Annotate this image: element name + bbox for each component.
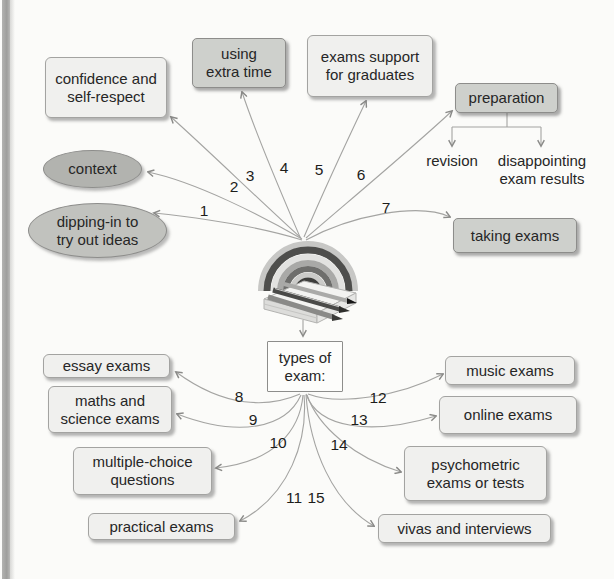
node-label: exams support for graduates bbox=[321, 48, 419, 84]
node-label: maths and science exams bbox=[60, 392, 159, 428]
node-label: music exams bbox=[466, 362, 554, 380]
node-label: preparation bbox=[469, 89, 545, 107]
branch-number-9: 9 bbox=[242, 411, 264, 429]
node-exams-support-for-graduates: exams support for graduates bbox=[307, 35, 433, 97]
preparation-subtree-lines bbox=[452, 112, 541, 146]
node-label: context bbox=[68, 160, 116, 178]
node-music-exams: music exams bbox=[445, 356, 575, 385]
branch-number-7: 7 bbox=[375, 199, 397, 217]
node-label: confidence and self-respect bbox=[55, 70, 157, 106]
branch-number-4: 4 bbox=[273, 159, 295, 177]
hub-label: types of exam: bbox=[279, 349, 332, 385]
node-label: revision bbox=[426, 152, 478, 170]
branch-number-12: 12 bbox=[367, 389, 389, 407]
node-label: dipping-in to try out ideas bbox=[57, 213, 139, 249]
node-taking-exams: taking exams bbox=[453, 218, 577, 253]
node-online-exams: online exams bbox=[439, 396, 577, 434]
branch-number-10: 10 bbox=[267, 434, 289, 452]
node-types-of-exam: types of exam: bbox=[267, 341, 343, 392]
branch-number-15: 15 bbox=[305, 489, 327, 507]
node-context: context bbox=[43, 150, 142, 188]
node-preparation: preparation bbox=[455, 83, 558, 113]
node-dipping-in: dipping-in to try out ideas bbox=[28, 203, 167, 258]
node-label: taking exams bbox=[471, 227, 559, 245]
node-label: disappointing exam results bbox=[498, 152, 586, 188]
node-practical-exams: practical exams bbox=[88, 513, 235, 540]
branch-number-5: 5 bbox=[308, 161, 330, 179]
node-using-extra-time: using extra time bbox=[192, 38, 286, 88]
branch-number-14: 14 bbox=[328, 436, 350, 454]
node-revision: revision bbox=[424, 152, 480, 170]
branch-number-8: 8 bbox=[228, 388, 250, 406]
node-psychometric-exams: psychometric exams or tests bbox=[404, 446, 547, 501]
node-essay-exams: essay exams bbox=[43, 354, 170, 378]
node-label: vivas and interviews bbox=[397, 520, 531, 538]
node-maths-science-exams: maths and science exams bbox=[48, 386, 172, 433]
branch-number-13: 13 bbox=[348, 411, 370, 429]
branch-number-6: 6 bbox=[350, 166, 372, 184]
node-label: online exams bbox=[464, 406, 552, 424]
rainbow-notepad-pens-image bbox=[261, 244, 357, 323]
branch-number-3: 3 bbox=[239, 167, 261, 185]
node-label: essay exams bbox=[63, 357, 151, 375]
branch-number-1: 1 bbox=[193, 202, 215, 220]
node-label: multiple-choice questions bbox=[92, 453, 192, 489]
node-multiple-choice-questions: multiple-choice questions bbox=[73, 447, 212, 495]
scanned-mindmap-page: dipping-in to try out ideas context conf… bbox=[0, 0, 614, 579]
node-label: using extra time bbox=[206, 45, 272, 81]
node-vivas-and-interviews: vivas and interviews bbox=[378, 514, 551, 543]
node-label: psychometric exams or tests bbox=[427, 456, 525, 492]
node-confidence-and-self-respect: confidence and self-respect bbox=[45, 57, 167, 118]
node-disappointing-exam-results: disappointing exam results bbox=[492, 150, 592, 190]
branch-number-11: 11 bbox=[283, 489, 305, 507]
node-label: practical exams bbox=[109, 518, 213, 536]
